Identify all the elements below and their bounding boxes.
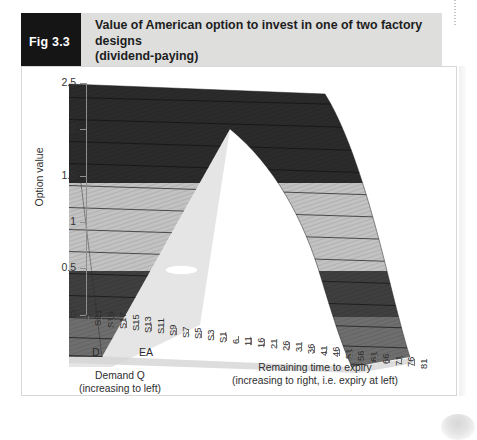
x-tick-S5 xyxy=(188,329,189,336)
y-tick-label-0: 0 xyxy=(70,308,80,320)
surface-highlight-marker xyxy=(166,266,197,274)
x-tick-S15 xyxy=(126,321,127,328)
x-tick-S17 xyxy=(113,319,114,326)
x-tick-6 xyxy=(226,334,227,341)
time-axis-caption: Remaining time to expiry (increasing to … xyxy=(215,362,415,387)
surface-mesh xyxy=(22,67,458,397)
x-tick-S13 xyxy=(138,323,139,330)
scan-artifact-blob xyxy=(441,414,475,440)
x-tick-31 xyxy=(289,342,290,349)
x-tick-label-81: 81 xyxy=(418,359,429,369)
scan-artifact-dots xyxy=(454,0,456,26)
demand-axis-title: Demand Q xyxy=(60,370,180,383)
x-tick-S11 xyxy=(151,324,152,331)
x-tick-46 xyxy=(326,347,327,354)
x-tick-S19 xyxy=(101,318,102,325)
y-tick-0: 0 xyxy=(80,315,86,316)
surface-plot: 0 0.5 1 1.5 2 2.5 Option value S21S19S17… xyxy=(22,67,458,397)
time-axis-title: Remaining time to expiry xyxy=(215,362,415,375)
y-axis-title: Option value xyxy=(33,117,45,237)
y-tick-label-0.5: 0.5 xyxy=(61,261,80,273)
x-tick-66 xyxy=(376,354,377,361)
x-tick-56 xyxy=(351,351,352,358)
point-label-EA: EA xyxy=(139,346,153,358)
x-tick-S3 xyxy=(201,331,202,338)
y-tick-label-2.5: 2.5 xyxy=(61,76,80,88)
y-tick-label-1.5: 1.5 xyxy=(61,169,80,181)
figure-caption-text: Value of American option to invest in on… xyxy=(81,13,442,71)
x-tick-11 xyxy=(238,336,239,343)
x-tick-S9 xyxy=(163,326,164,333)
x-tick-S21 xyxy=(88,316,89,323)
demand-axis-caption: Demand Q (increasing to left) xyxy=(60,370,180,395)
y-tick-1.5: 1.5 xyxy=(80,176,86,177)
y-axis-line xyxy=(86,83,87,315)
caption-line-1: Value of American option to invest in on… xyxy=(95,18,434,49)
y-tick-2.5: 2.5 xyxy=(80,83,86,84)
y-tick-2: 2 xyxy=(80,129,86,130)
x-tick-21 xyxy=(264,339,265,346)
figure-caption: Fig 3.3 Value of American option to inve… xyxy=(21,13,442,71)
figure-number-tag: Fig 3.3 xyxy=(21,13,81,71)
x-tick-26 xyxy=(276,341,277,348)
x-tick-16 xyxy=(251,338,252,345)
caption-line-2: (dividend-paying) xyxy=(95,49,434,65)
figure-frame: 0 0.5 1 1.5 2 2.5 Option value S21S19S17… xyxy=(21,66,457,396)
y-tick-label-1: 1 xyxy=(70,215,80,227)
point-label-D: D xyxy=(92,346,100,358)
y-tick-1: 1 xyxy=(80,222,86,223)
demand-axis-subtitle: (increasing to left) xyxy=(60,383,180,396)
point-label-EA-sub: A xyxy=(146,346,153,358)
page-edge-shadow xyxy=(459,66,466,396)
x-tick-36 xyxy=(301,344,302,351)
x-tick-S7 xyxy=(176,328,177,335)
x-tick-S1 xyxy=(213,333,214,340)
y-tick-0.5: 0.5 xyxy=(80,268,86,269)
y-tick-label-2: 2 xyxy=(70,122,80,134)
time-axis-subtitle: (increasing to right, i.e. expiry at lef… xyxy=(215,375,415,388)
x-tick-51 xyxy=(339,349,340,356)
x-tick-61 xyxy=(364,352,365,359)
x-tick-41 xyxy=(314,346,315,353)
